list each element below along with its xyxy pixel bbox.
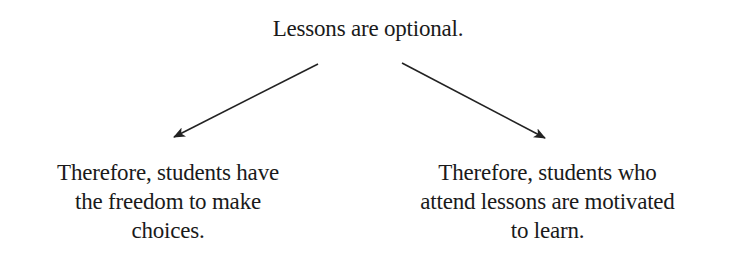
conclusion-right-line-3: to learn.	[380, 216, 715, 245]
conclusion-right-line-2: attend lessons are motivated	[380, 187, 715, 216]
conclusion-left-line-2: the freedom to make	[18, 187, 318, 216]
conclusion-left-line-1: Therefore, students have	[18, 158, 318, 187]
conclusion-left-line-3: choices.	[18, 216, 318, 245]
arrow-right-icon	[402, 63, 545, 138]
conclusion-right-line-1: Therefore, students who	[380, 158, 715, 187]
conclusion-left: Therefore, students have the freedom to …	[18, 158, 318, 245]
conclusion-right: Therefore, students who attend lessons a…	[380, 158, 715, 245]
arrow-left-icon	[174, 64, 318, 137]
